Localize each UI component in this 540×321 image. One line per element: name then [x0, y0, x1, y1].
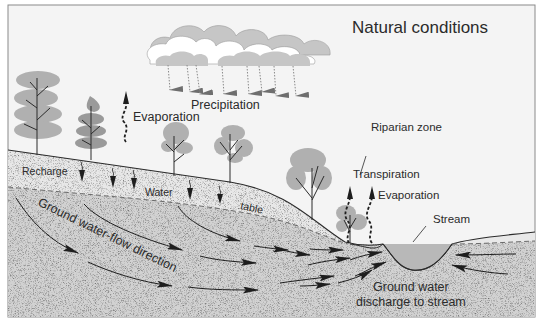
label-stream: Stream	[433, 213, 470, 225]
label-discharge-2: discharge to stream	[356, 295, 466, 309]
label-evaporation-right: Evaporation	[378, 189, 439, 201]
hydrologic-diagram: Natural conditions Precipitation Evapora…	[0, 0, 540, 321]
label-water-table-1: Water	[145, 186, 173, 198]
label-precipitation: Precipitation	[191, 98, 260, 112]
label-riparian-zone: Riparian zone	[371, 121, 442, 133]
label-recharge: Recharge	[22, 165, 68, 177]
diagram-title: Natural conditions	[352, 18, 488, 37]
label-discharge-1: Ground water	[373, 280, 449, 294]
label-transpiration: Transpiration	[353, 168, 420, 180]
label-evaporation-left: Evaporation	[133, 110, 200, 124]
